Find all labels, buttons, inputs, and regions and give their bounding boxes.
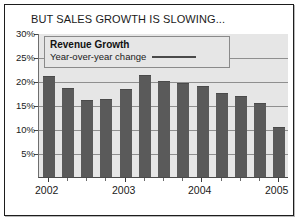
x-tick-mark	[48, 178, 49, 182]
y-tick-label: 25%	[4, 53, 35, 63]
x-tick-mark-minor	[144, 178, 145, 181]
bar	[216, 93, 228, 177]
bar	[120, 89, 132, 177]
bar	[100, 99, 112, 177]
bar	[62, 88, 74, 177]
bar	[43, 76, 55, 177]
legend-entry: Year-over-year change	[50, 51, 229, 63]
x-tick-mark-minor	[86, 178, 87, 181]
x-tick-mark-minor	[240, 178, 241, 181]
bar	[235, 96, 247, 177]
bar	[81, 100, 93, 177]
x-axis: 2002200320042005	[0, 178, 298, 208]
x-tick-mark	[125, 178, 126, 182]
x-tick-mark-minor	[105, 178, 106, 181]
x-tick-label: 2003	[112, 184, 135, 196]
x-tick-mark-minor	[182, 178, 183, 181]
x-tick-mark	[201, 178, 202, 182]
legend-swatch-icon	[152, 56, 196, 58]
x-tick-label: 2002	[35, 184, 58, 196]
bar	[197, 86, 209, 177]
legend-title: Revenue Growth	[50, 39, 229, 51]
x-tick-label: 2004	[188, 184, 211, 196]
x-tick-mark-minor	[67, 178, 68, 181]
legend-subtitle: Year-over-year change	[50, 51, 146, 63]
y-tick-label: 20%	[4, 77, 35, 87]
x-tick-label: 2005	[265, 184, 288, 196]
x-tick-mark	[278, 178, 279, 182]
chart-figure: BUT SALES GROWTH IS SLOWING... 5%10%15%2…	[0, 0, 298, 220]
bar	[177, 83, 189, 177]
bar	[139, 75, 151, 177]
x-tick-mark-minor	[221, 178, 222, 181]
chart-legend: Revenue Growth Year-over-year change	[44, 36, 230, 68]
y-tick-label: 30%	[4, 29, 35, 39]
y-tick-label: 10%	[4, 125, 35, 135]
bar	[158, 81, 170, 177]
chart-title: BUT SALES GROWTH IS SLOWING...	[31, 13, 225, 25]
y-tick-label: 15%	[4, 101, 35, 111]
bar	[273, 127, 285, 177]
y-tick-label: 5%	[4, 149, 35, 159]
x-tick-mark-minor	[163, 178, 164, 181]
bar	[254, 103, 266, 177]
x-tick-mark-minor	[259, 178, 260, 181]
